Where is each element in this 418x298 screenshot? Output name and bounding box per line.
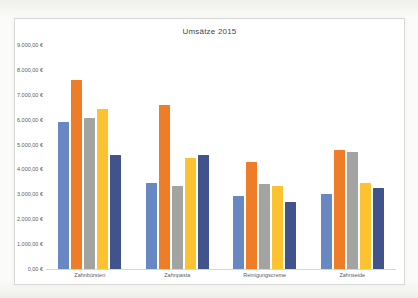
category-label: Zahnpasta [164, 272, 190, 278]
bar-cluster [321, 45, 384, 269]
y-axis-label: 9.000,00 € [17, 42, 43, 48]
y-axis-label: 5.000,00 € [17, 142, 43, 148]
bar-cluster [233, 45, 296, 269]
y-axis-label: 7.000,00 € [17, 92, 43, 98]
bar-dark-blue [110, 155, 121, 270]
bar-yellow [185, 158, 196, 269]
bar-group: Reinigungscreme [233, 45, 296, 269]
bars-area: ZahnbürstenZahnpastaReinigungscremeZahns… [46, 45, 396, 270]
bar-gray [172, 186, 183, 269]
bar-group: Zahnpasta [146, 45, 209, 269]
chart-frame: Umsätze 2015 9.000,00 €8.000,00 €7.000,0… [14, 18, 405, 285]
bar-dark-blue [285, 202, 296, 269]
bar-orange [246, 162, 257, 269]
bar-gray [84, 118, 95, 269]
bar-blue [321, 194, 332, 269]
plot-area: 9.000,00 €8.000,00 €7.000,00 €6.000,00 €… [15, 45, 404, 269]
y-axis-label: 3.000,00 € [17, 191, 43, 197]
bar-orange [71, 80, 82, 269]
bar-gray [259, 184, 270, 269]
bar-blue [233, 196, 244, 269]
category-label: Zahnseide [339, 272, 365, 278]
bar-dark-blue [373, 188, 384, 269]
bar-yellow [97, 109, 108, 270]
bar-group: Zahnseide [321, 45, 384, 269]
category-label: Reinigungscreme [243, 272, 286, 278]
y-axis-label: 4.000,00 € [17, 166, 43, 172]
chart-title: Umsätze 2015 [15, 27, 404, 36]
y-axis-label: 2.000,00 € [17, 216, 43, 222]
y-axis: 9.000,00 €8.000,00 €7.000,00 €6.000,00 €… [15, 45, 46, 269]
y-axis-label: 0,00 € [28, 266, 43, 272]
y-axis-label: 1.000,00 € [17, 241, 43, 247]
category-label: Zahnbürsten [74, 272, 105, 278]
bar-dark-blue [198, 155, 209, 270]
bar-gray [347, 152, 358, 269]
bar-orange [159, 105, 170, 269]
bar-group: Zahnbürsten [58, 45, 121, 269]
y-axis-label: 6.000,00 € [17, 117, 43, 123]
bar-cluster [58, 45, 121, 269]
bar-blue [146, 183, 157, 269]
bar-orange [334, 150, 345, 270]
bar-yellow [360, 183, 371, 269]
bar-yellow [272, 186, 283, 269]
bar-cluster [146, 45, 209, 269]
bar-blue [58, 122, 69, 269]
y-axis-label: 8.000,00 € [17, 67, 43, 73]
